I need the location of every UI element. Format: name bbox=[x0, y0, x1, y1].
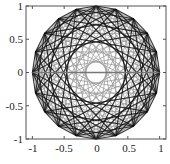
x-tick-label: -1 bbox=[28, 142, 37, 154]
x-tick-label: 0 bbox=[94, 142, 100, 154]
x-axis-labels: -1 -0.5 0 0.5 1 bbox=[28, 142, 163, 154]
y-tick-label: 1 bbox=[18, 0, 24, 12]
x-tick-label: 1 bbox=[158, 142, 164, 154]
figure-caption bbox=[40, 158, 150, 164]
chord-chart: -1 -0.5 0 0.5 1 1 0.5 0 -0.5 -1 bbox=[0, 0, 170, 164]
y-tick-label: -0.5 bbox=[6, 100, 24, 112]
y-tick-label: 0.5 bbox=[9, 33, 23, 45]
y-tick-label: 0 bbox=[18, 66, 24, 78]
y-tick-label: -1 bbox=[14, 133, 23, 145]
plot-area bbox=[26, 6, 166, 139]
y-axis-labels: 1 0.5 0 -0.5 -1 bbox=[6, 0, 24, 145]
x-tick-label: 0.5 bbox=[122, 142, 136, 154]
x-tick-label: -0.5 bbox=[55, 142, 73, 154]
